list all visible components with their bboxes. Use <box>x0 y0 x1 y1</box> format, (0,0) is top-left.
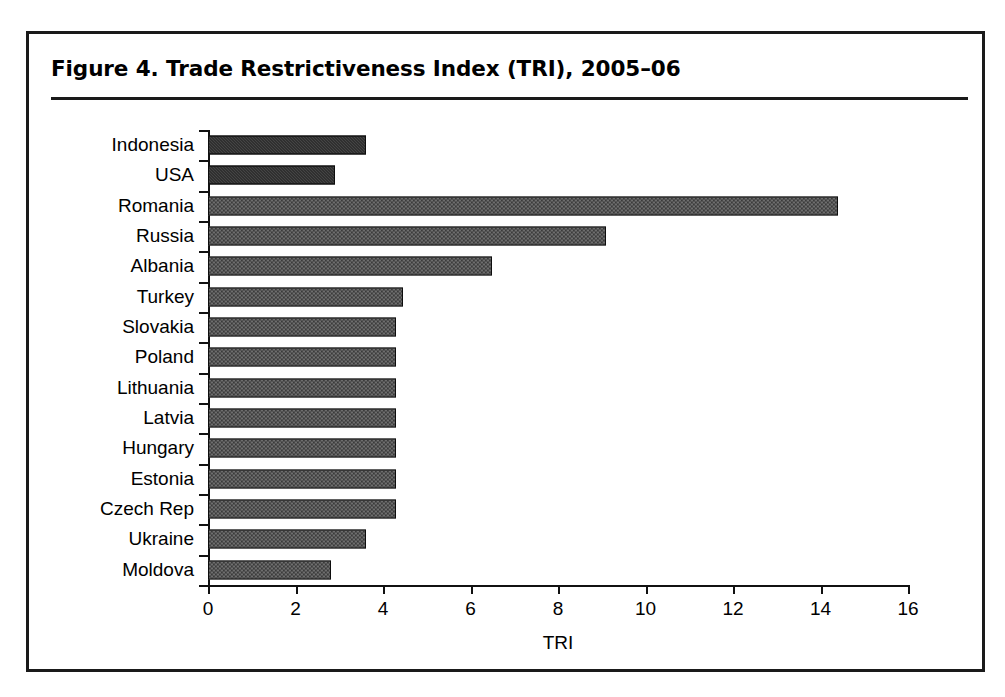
x-axis-tick-label: 16 <box>897 598 918 620</box>
x-axis-tick-label: 10 <box>635 598 656 620</box>
y-axis-label: Poland <box>135 346 194 368</box>
y-axis-label: Indonesia <box>112 134 194 156</box>
x-axis-tick <box>733 585 735 594</box>
y-axis-label: Slovakia <box>122 316 194 338</box>
y-axis-label: Estonia <box>131 468 194 490</box>
y-axis-label: Romania <box>118 195 194 217</box>
y-axis-label: Albania <box>131 255 194 277</box>
x-axis-tick <box>471 585 473 594</box>
bar <box>208 166 335 185</box>
y-axis-label: Lithuania <box>117 377 194 399</box>
y-axis-label: USA <box>155 164 194 186</box>
bar-row: USA <box>208 160 908 190</box>
y-axis-label: Ukraine <box>129 528 194 550</box>
bar-row: Romania <box>208 191 908 221</box>
bar <box>208 500 396 519</box>
y-axis-tick <box>199 373 208 375</box>
bar-row: Latvia <box>208 403 908 433</box>
y-axis-tick <box>199 251 208 253</box>
figure-caption: Figure 4. Trade Restrictiveness Index (T… <box>51 56 968 81</box>
y-axis-tick <box>199 433 208 435</box>
bar <box>208 227 606 246</box>
bar-row: Turkey <box>208 282 908 312</box>
bar-row: Poland <box>208 342 908 372</box>
x-axis-tick-label: 14 <box>810 598 831 620</box>
y-axis-label: Latvia <box>143 407 194 429</box>
x-axis-tick <box>383 585 385 594</box>
bar <box>208 348 396 367</box>
bar <box>208 530 366 549</box>
bar <box>208 136 366 155</box>
y-axis-tick <box>199 403 208 405</box>
y-axis-tick <box>199 585 208 587</box>
bar-row: Ukraine <box>208 524 908 554</box>
x-axis-tick <box>208 585 210 594</box>
y-axis-tick <box>199 312 208 314</box>
y-axis-tick <box>199 221 208 223</box>
x-axis-tick <box>908 585 910 594</box>
y-axis-tick <box>199 555 208 557</box>
bar <box>208 378 396 397</box>
y-axis-label: Turkey <box>137 286 194 308</box>
y-axis-label: Russia <box>136 225 194 247</box>
bar-row: Indonesia <box>208 130 908 160</box>
x-axis-tick-label: 2 <box>290 598 301 620</box>
x-axis-tick <box>558 585 560 594</box>
bar-row: Czech Rep <box>208 494 908 524</box>
bar <box>208 469 396 488</box>
y-axis-tick <box>199 524 208 526</box>
y-axis-label: Hungary <box>122 437 194 459</box>
x-axis-tick-label: 4 <box>378 598 389 620</box>
bar <box>208 257 492 276</box>
bar-row: Lithuania <box>208 373 908 403</box>
y-axis-tick <box>199 342 208 344</box>
bar-row: Moldova <box>208 555 908 585</box>
x-axis-tick-label: 12 <box>722 598 743 620</box>
x-axis-tick <box>821 585 823 594</box>
x-axis-title: TRI <box>208 632 908 654</box>
x-axis-tick <box>296 585 298 594</box>
y-axis-label: Moldova <box>122 559 194 581</box>
figure-frame: Figure 4. Trade Restrictiveness Index (T… <box>26 31 985 672</box>
x-axis-tick-label: 8 <box>553 598 564 620</box>
bar-row: Slovakia <box>208 312 908 342</box>
bar-row: Estonia <box>208 464 908 494</box>
x-axis-tick <box>646 585 648 594</box>
y-axis-label: Czech Rep <box>100 498 194 520</box>
bar <box>208 287 403 306</box>
bar <box>208 439 396 458</box>
chart-plot-area: IndonesiaUSARomaniaRussiaAlbaniaTurkeySl… <box>208 130 908 585</box>
bar <box>208 560 331 579</box>
y-axis-tick <box>199 160 208 162</box>
y-axis-tick <box>199 191 208 193</box>
bar <box>208 318 396 337</box>
x-axis-tick-label: 0 <box>203 598 214 620</box>
caption-divider <box>51 97 968 100</box>
x-axis-tick-label: 6 <box>465 598 476 620</box>
y-axis-tick <box>199 494 208 496</box>
y-axis-tick <box>199 130 208 132</box>
y-axis-tick <box>199 464 208 466</box>
bar-row: Russia <box>208 221 908 251</box>
bar-row: Albania <box>208 251 908 281</box>
y-axis-tick <box>199 282 208 284</box>
bar <box>208 409 396 428</box>
bar <box>208 196 838 215</box>
bar-row: Hungary <box>208 433 908 463</box>
